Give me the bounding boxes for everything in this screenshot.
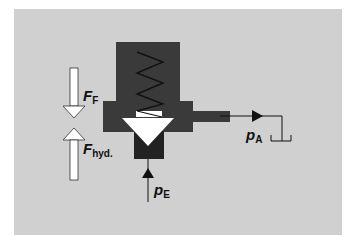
outlet-arrow-icon: [252, 110, 263, 122]
inlet-line: [142, 159, 154, 202]
spring-force-arrow-icon: [63, 68, 85, 118]
outlet-pressure-label: pA: [246, 127, 262, 145]
inlet-arrow-icon: [142, 168, 154, 178]
hydraulic-force-label: Fhyd.: [83, 141, 113, 159]
valve-diagram: [0, 0, 349, 243]
spring-force-label: FF: [83, 88, 98, 106]
hydraulic-force-arrow-icon: [63, 128, 85, 180]
tank-icon: [271, 135, 291, 141]
inlet-pressure-label: pE: [154, 182, 170, 200]
valve-body: [103, 42, 230, 159]
